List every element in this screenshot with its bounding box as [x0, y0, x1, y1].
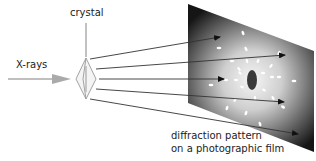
film-label-line1: diffraction pattern	[171, 130, 262, 141]
film-label-line2: on a photographic film	[171, 143, 284, 154]
incident-beam	[8, 74, 71, 84]
central-spot	[247, 70, 257, 90]
arrow-right-icon	[52, 74, 71, 84]
xrays-label: X-rays	[16, 59, 47, 70]
crystal-label: crystal	[70, 7, 104, 18]
crystal-icon	[76, 58, 96, 99]
xray-diffraction-diagram: crystal X-rays diffraction pattern on a …	[0, 0, 316, 161]
